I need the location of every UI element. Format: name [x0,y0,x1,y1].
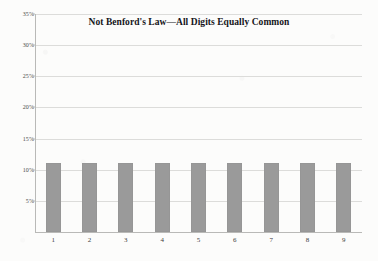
x-axis-tick-label: 3 [124,236,128,244]
y-axis-tick-mark [32,138,35,139]
x-axis-tick-label: 8 [306,236,310,244]
bar [46,163,61,232]
x-axis-tick-label: 2 [88,236,92,244]
y-axis-tick-mark [32,200,35,201]
x-axis-tick-label: 5 [197,236,201,244]
x-axis-tick-label: 1 [51,236,55,244]
y-axis-line [35,14,36,233]
chart-figure: Not Benford's Law—All Digits Equally Com… [0,0,378,261]
bar [82,163,97,232]
bar [227,163,242,232]
x-axis-line [35,232,362,233]
gridline [35,139,362,140]
x-axis-tick-label: 7 [269,236,273,244]
gridline [35,107,362,108]
y-axis-tick-mark [32,169,35,170]
gridline [35,45,362,46]
bar [336,163,351,232]
bar [118,163,133,232]
bar [191,163,206,232]
y-axis-tick-mark [32,76,35,77]
bar [155,163,170,232]
x-axis-tick-label: 4 [160,236,164,244]
y-axis-tick-mark [32,14,35,15]
y-axis-tick-mark [32,45,35,46]
plot-area [35,14,362,232]
x-axis-tick-label: 6 [233,236,237,244]
x-axis-tick-label: 9 [342,236,346,244]
y-axis-tick-mark [32,107,35,108]
bar [264,163,279,232]
gridline [35,14,362,15]
gridline [35,76,362,77]
bar [300,163,315,232]
